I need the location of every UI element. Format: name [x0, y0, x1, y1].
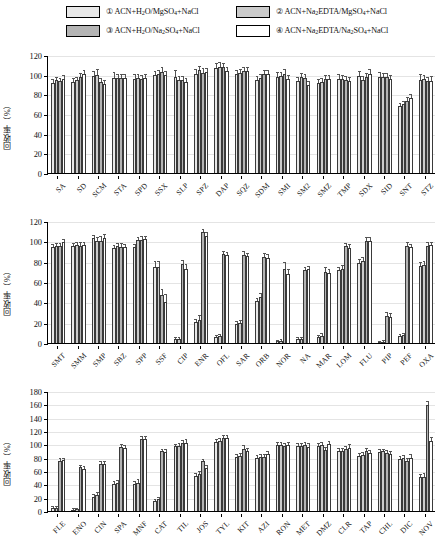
- legend-label-3: ③ ACN+H2O/Na2SO4+NaCl: [106, 27, 200, 35]
- error-bar-cap: [181, 440, 184, 441]
- x-tick-label: CAT: [153, 519, 170, 536]
- error-bar-cap: [348, 444, 351, 445]
- x-tick-label: DAP: [213, 181, 231, 199]
- x-tick-mark: [364, 514, 365, 517]
- bar: [164, 452, 168, 511]
- error-bar: [285, 263, 286, 269]
- error-bar-cap: [256, 76, 259, 77]
- legend-item-4: ④ ACN+Na2EDTA/Na2SO4+NaCl: [236, 25, 388, 37]
- error-bar: [94, 236, 95, 239]
- bar-group: [255, 56, 269, 173]
- x-tick-label: ENR: [193, 351, 211, 369]
- bar-group: [419, 392, 433, 511]
- error-bar-cap: [328, 441, 331, 442]
- x-tick-mark: [425, 176, 426, 179]
- error-bar-cap: [140, 436, 143, 437]
- x-tick-mark: [425, 514, 426, 517]
- error-bar-cap: [140, 75, 143, 76]
- error-bar-cap: [430, 76, 433, 77]
- bar-group: [112, 56, 126, 173]
- x-tick-mark: [118, 346, 119, 349]
- error-bar-cap: [283, 443, 286, 444]
- bar: [184, 82, 188, 173]
- legend-label-2: ② ACN+Na2EDTA/MgSO4+NaCl: [276, 8, 387, 16]
- error-bar: [244, 446, 245, 448]
- bar-group: [92, 56, 106, 173]
- y-tick-label: 20: [34, 150, 42, 159]
- bar: [409, 247, 413, 343]
- error-bar: [390, 452, 391, 454]
- y-axis-label: 回收率（%）: [2, 246, 16, 336]
- error-bar-cap: [385, 450, 388, 451]
- bar-group: [276, 56, 290, 173]
- error-bar-cap: [116, 74, 119, 75]
- error-bar: [56, 78, 57, 80]
- x-tick-label: AZI: [256, 519, 272, 535]
- x-tick-mark: [98, 176, 99, 179]
- error-bar-cap: [181, 260, 184, 261]
- bar-group: [255, 392, 269, 511]
- error-bar-cap: [287, 75, 290, 76]
- error-bar: [227, 68, 228, 71]
- error-bar-cap: [215, 439, 218, 440]
- bar: [225, 438, 229, 511]
- error-bar: [309, 267, 310, 270]
- x-tick-label: TIL: [175, 519, 190, 534]
- bar-group: [214, 56, 228, 173]
- bar-group: [194, 56, 208, 173]
- error-bar: [84, 71, 85, 74]
- bar: [429, 441, 433, 511]
- error-bar-cap: [276, 72, 279, 73]
- error-bar: [207, 233, 208, 236]
- bar: [307, 447, 311, 511]
- bar: [327, 444, 331, 511]
- bar-group: [398, 222, 412, 343]
- x-tick-label: SA: [54, 181, 68, 195]
- error-bar-cap: [300, 443, 303, 444]
- bar-group: [276, 392, 290, 511]
- error-bar-cap: [276, 442, 279, 443]
- error-bar: [166, 450, 167, 452]
- error-bar: [175, 71, 176, 76]
- x-tick-mark: [343, 176, 344, 179]
- error-bar-cap: [378, 72, 381, 73]
- bar: [205, 236, 209, 343]
- error-bar: [203, 460, 204, 462]
- bar: [205, 72, 209, 173]
- error-bar-cap: [123, 74, 126, 75]
- bar: [286, 79, 290, 173]
- x-tick-label: SSX: [153, 181, 170, 198]
- bar-group: [235, 56, 249, 173]
- x-tick-label: SSF: [154, 351, 170, 367]
- bar: [184, 443, 188, 511]
- y-tick-label: 180: [29, 388, 42, 397]
- error-bar-cap: [317, 79, 320, 80]
- error-bar-cap: [55, 243, 58, 244]
- error-bar-cap: [103, 461, 106, 462]
- bar: [123, 448, 127, 511]
- error-bar-cap: [344, 446, 347, 447]
- bar: [429, 81, 433, 173]
- error-bar-cap: [409, 94, 412, 95]
- bar-group: [92, 222, 106, 343]
- error-bar-cap: [307, 81, 310, 82]
- error-bar-cap: [75, 242, 78, 243]
- bar-group: [92, 392, 106, 511]
- error-bar: [305, 75, 306, 78]
- error-bar-cap: [365, 448, 368, 449]
- x-tick-mark: [364, 346, 365, 349]
- y-tick-label: 40: [34, 299, 42, 308]
- bar-group: [296, 222, 310, 343]
- bar-group: [71, 222, 85, 343]
- x-tick-label: TYL: [214, 519, 231, 536]
- error-bar: [183, 77, 184, 80]
- error-bar-cap: [304, 442, 307, 443]
- x-tick-label: JOS: [195, 519, 211, 535]
- error-bar: [329, 76, 330, 79]
- x-tick-mark: [139, 176, 140, 179]
- bar: [62, 242, 66, 343]
- error-bar: [349, 445, 350, 448]
- plot-area-3: 020406080100120140160180: [47, 392, 435, 512]
- bar-group: [357, 222, 371, 343]
- bar-group: [51, 222, 65, 343]
